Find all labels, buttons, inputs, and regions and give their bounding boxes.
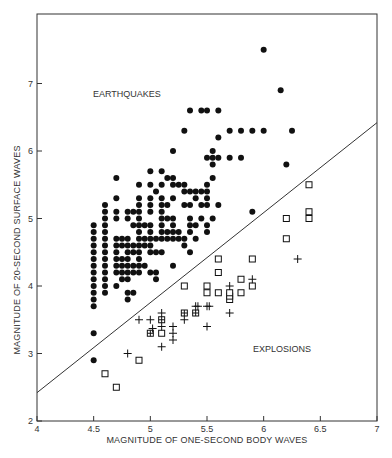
explosion-square-point [181, 283, 187, 289]
earthquake-point [176, 236, 182, 242]
earthquake-point [125, 216, 131, 222]
earthquake-point [147, 222, 153, 228]
earthquake-point [193, 195, 199, 201]
explosion-plus-point [248, 275, 256, 283]
earthquake-point [119, 243, 125, 249]
explosion-square-point [204, 283, 210, 289]
earthquake-point [278, 87, 284, 93]
earthquake-point [170, 263, 176, 269]
explosion-plus-point [203, 323, 211, 331]
earthquake-point [113, 270, 119, 276]
earthquake-point [102, 222, 108, 228]
x-tick-label: 5.5 [201, 424, 214, 434]
earthquake-point [119, 276, 125, 282]
earthquake-point [261, 47, 267, 53]
annotation-earthquakes: EARTHQUAKES [93, 89, 161, 99]
earthquake-point [147, 236, 153, 242]
earthquake-point [91, 222, 97, 228]
x-tick-label: 6.5 [314, 424, 327, 434]
explosion-square-point [283, 216, 289, 222]
y-tick-label: 5 [28, 214, 33, 224]
earthquake-point [198, 216, 204, 222]
earthquake-point [125, 276, 131, 282]
earthquake-point [91, 256, 97, 262]
earthquake-point [159, 195, 165, 201]
x-tick-label: 7 [374, 424, 379, 434]
x-tick-label: 5 [148, 424, 153, 434]
earthquake-point [204, 182, 210, 188]
earthquake-point [227, 128, 233, 134]
earthquake-point [102, 276, 108, 282]
earthquake-point [136, 249, 142, 255]
explosion-square-point [238, 290, 244, 296]
earthquake-point [102, 229, 108, 235]
y-tick-label: 4 [28, 281, 33, 291]
explosion-square-point [159, 330, 165, 336]
earthquake-point [198, 108, 204, 114]
earthquake-point [159, 209, 165, 215]
discriminant-line [37, 123, 377, 393]
earthquake-point [204, 195, 210, 201]
x-tick-label: 4 [34, 424, 39, 434]
earthquake-point [210, 155, 216, 161]
earthquake-point [125, 263, 131, 269]
earthquake-point [113, 209, 119, 215]
earthquake-point [147, 209, 153, 215]
earthquake-point [204, 222, 210, 228]
earthquake-point [159, 216, 165, 222]
earthquake-point [181, 236, 187, 242]
earthquake-point [125, 249, 131, 255]
explosion-square-point [136, 357, 142, 363]
earthquake-point [187, 189, 193, 195]
earthquake-point [170, 216, 176, 222]
earthquake-point [91, 290, 97, 296]
earthquake-point [181, 202, 187, 208]
explosion-square-point [113, 384, 119, 390]
earthquake-point [113, 256, 119, 262]
x-tick-label: 6 [261, 424, 266, 434]
earthquake-point [147, 202, 153, 208]
earthquake-point [113, 175, 119, 181]
earthquake-point [91, 357, 97, 363]
earthquake-point [210, 175, 216, 181]
plot-frame [37, 14, 377, 421]
earthquake-point [125, 209, 131, 215]
earthquake-point [102, 270, 108, 276]
earthquake-point [136, 236, 142, 242]
earthquake-point [215, 202, 221, 208]
earthquake-point [210, 216, 216, 222]
earthquake-point [159, 236, 165, 242]
annotation-explosions: EXPLOSIONS [253, 344, 311, 354]
earthquake-point [147, 182, 153, 188]
earthquake-point [136, 202, 142, 208]
earthquake-point [261, 128, 267, 134]
earthquake-point [238, 155, 244, 161]
earthquake-point [249, 209, 255, 215]
earthquake-point [130, 249, 136, 255]
earthquake-point [227, 155, 233, 161]
earthquake-point [170, 222, 176, 228]
earthquake-point [102, 256, 108, 262]
earthquake-point [130, 263, 136, 269]
x-axis-title: MAGNITUDE OF ONE-SECOND BODY WAVES [106, 435, 307, 445]
earthquake-point [113, 263, 119, 269]
earthquake-point [102, 243, 108, 249]
earthquake-point [187, 249, 193, 255]
earthquake-point [125, 290, 131, 296]
earthquake-point [91, 263, 97, 269]
earthquake-point [130, 222, 136, 228]
earthquake-point [91, 297, 97, 303]
explosion-plus-point [135, 316, 143, 324]
earthquake-point [215, 155, 221, 161]
earthquake-point [204, 229, 210, 235]
earthquake-point [204, 155, 210, 161]
earthquake-point [215, 108, 221, 114]
earthquake-point [164, 175, 170, 181]
earthquake-point [125, 236, 131, 242]
earthquake-point [130, 209, 136, 215]
earthquake-point [102, 263, 108, 269]
earthquake-point [170, 175, 176, 181]
earthquake-point [119, 263, 125, 269]
explosion-plus-point [169, 323, 177, 331]
explosion-square-point [249, 256, 255, 262]
